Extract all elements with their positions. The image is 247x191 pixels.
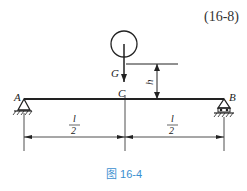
span-left-denominator: 2 — [71, 125, 76, 136]
height-arrow-down-icon — [154, 92, 160, 99]
height-arrow-up-icon — [154, 64, 160, 71]
dim-arrow-icon — [125, 135, 133, 139]
span-left-numerator: l — [73, 113, 76, 124]
support-b-label: B — [229, 91, 236, 103]
span-right-denominator: 2 — [169, 125, 174, 136]
equation-number: (16-8) — [204, 9, 239, 25]
beam-impact-diagram: (16-8) G h C A B l 2 — [0, 0, 247, 191]
dim-arrow-icon — [216, 135, 224, 139]
span-right-numerator: l — [171, 113, 174, 124]
support-a-label: A — [13, 91, 21, 103]
roller-wheel-icon — [220, 109, 223, 112]
dim-arrow-icon — [117, 135, 125, 139]
roller-wheel-icon — [226, 109, 229, 112]
dim-arrow-icon — [24, 135, 32, 139]
figure-caption: 图 16-4 — [106, 168, 142, 180]
height-label: h — [143, 79, 155, 85]
weight-label: G — [111, 67, 119, 79]
